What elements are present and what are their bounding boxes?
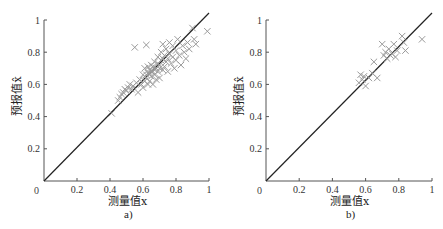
data-point-x-marker bbox=[150, 81, 156, 87]
data-point-x-marker bbox=[191, 36, 197, 42]
x-tick-label: 0.2 bbox=[71, 184, 84, 195]
x-tick-label: 0.8 bbox=[170, 184, 183, 195]
panel-a-ylabel: 预报值x̂ bbox=[8, 66, 24, 126]
panel-b-xlabel: 测量值x bbox=[330, 192, 369, 208]
y-tick-label: 0.2 bbox=[250, 143, 263, 154]
data-point-x-marker bbox=[399, 33, 405, 39]
data-point-x-marker bbox=[419, 36, 425, 42]
data-point-x-marker bbox=[193, 41, 199, 47]
y-tick-label: 0.6 bbox=[250, 79, 263, 90]
data-point-x-marker bbox=[132, 44, 138, 50]
data-point-x-marker bbox=[379, 41, 385, 47]
x-tick-label: 0.8 bbox=[393, 184, 406, 195]
data-point-x-marker bbox=[108, 110, 114, 116]
data-point-x-marker bbox=[366, 75, 372, 81]
panel-b-origin-label: 0 bbox=[257, 185, 262, 196]
data-point-x-marker bbox=[402, 47, 408, 53]
y-tick-label: 0.8 bbox=[250, 47, 263, 58]
x-tick-label: 1 bbox=[207, 184, 212, 195]
y-tick-label: 1 bbox=[257, 15, 262, 26]
panel-a-caption: a) bbox=[124, 208, 133, 220]
panel-b-ylabel: 预报值x̂ bbox=[230, 66, 246, 126]
y-tick-label: 0.4 bbox=[250, 111, 263, 122]
data-point-x-marker bbox=[137, 76, 143, 82]
data-point-x-marker bbox=[392, 54, 398, 60]
data-point-x-marker bbox=[160, 41, 166, 47]
data-point-x-marker bbox=[143, 42, 149, 48]
x-tick-label: 1 bbox=[430, 184, 435, 195]
data-point-x-marker bbox=[183, 55, 189, 61]
reference-line bbox=[266, 13, 432, 181]
data-point-x-marker bbox=[178, 62, 184, 68]
panel-a-origin-label: 0 bbox=[34, 185, 39, 196]
data-point-x-marker bbox=[173, 47, 179, 53]
scatter-panel-b: 0.20.40.60.810.20.40.60.81 bbox=[250, 13, 435, 195]
data-point-x-marker bbox=[391, 41, 397, 47]
data-point-x-marker bbox=[401, 39, 407, 45]
data-point-x-marker bbox=[165, 68, 171, 74]
scatter-panel-a: 0.20.40.60.810.20.40.60.81 bbox=[28, 13, 212, 195]
reference-line bbox=[44, 13, 209, 181]
panel-b-caption: b) bbox=[346, 208, 355, 220]
data-point-x-marker bbox=[371, 59, 377, 65]
y-tick-label: 0.6 bbox=[28, 79, 41, 90]
y-tick-label: 0.2 bbox=[28, 143, 41, 154]
x-tick-label: 0.2 bbox=[293, 184, 306, 195]
y-tick-label: 0.4 bbox=[28, 111, 41, 122]
figure: 0.20.40.60.810.20.40.60.81 0.20.40.60.81… bbox=[0, 0, 443, 229]
data-point-x-marker bbox=[204, 28, 210, 34]
data-point-x-marker bbox=[170, 43, 176, 49]
y-tick-label: 1 bbox=[35, 15, 40, 26]
data-point-x-marker bbox=[171, 65, 177, 71]
data-point-x-marker bbox=[374, 75, 380, 81]
panel-a-xlabel: 测量值x bbox=[108, 192, 147, 208]
y-tick-label: 0.8 bbox=[28, 47, 41, 58]
data-point-x-marker bbox=[174, 36, 180, 42]
data-point-x-marker bbox=[362, 83, 368, 89]
